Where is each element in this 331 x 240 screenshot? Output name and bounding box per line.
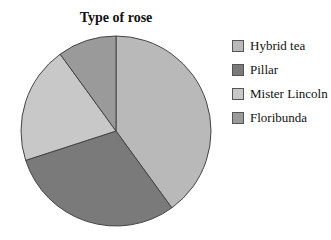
- legend-label: Hybrid tea: [250, 38, 305, 54]
- legend-item-pillar: Pillar: [232, 58, 328, 82]
- legend-swatch: [232, 88, 244, 100]
- legend-item-hybrid-tea: Hybrid tea: [232, 34, 328, 58]
- legend-swatch: [232, 64, 244, 76]
- legend-label: Mister Lincoln: [250, 86, 328, 102]
- legend-item-mister-lincoln: Mister Lincoln: [232, 82, 328, 106]
- legend-label: Floribunda: [250, 110, 307, 126]
- legend-swatch: [232, 112, 244, 124]
- legend-label: Pillar: [250, 62, 278, 78]
- legend: Hybrid tea Pillar Mister Lincoln Floribu…: [232, 34, 328, 130]
- legend-swatch: [232, 40, 244, 52]
- legend-item-floribunda: Floribunda: [232, 106, 328, 130]
